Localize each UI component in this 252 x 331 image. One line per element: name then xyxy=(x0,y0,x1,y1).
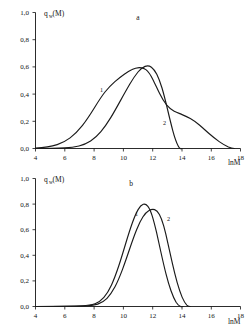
curve-a-1 xyxy=(36,68,235,149)
x-tick-label-b-1: 6 xyxy=(63,312,67,320)
y-tick-label-b-5: 1,0 xyxy=(20,175,29,183)
curve-b-1 xyxy=(36,204,184,306)
y-axis-title-a: q w (M) xyxy=(44,9,65,19)
x-axis-title-b: lnM xyxy=(228,317,241,326)
curve-label-a-2: 2 xyxy=(163,119,166,126)
x-tick-label-b-4: 12 xyxy=(149,312,157,320)
y-tick-label-a-4: 0,8 xyxy=(20,36,29,44)
x-tick-label-a-6: 16 xyxy=(208,154,216,162)
x-tick-label-b-2: 8 xyxy=(92,312,96,320)
x-tick-label-a-5: 14 xyxy=(179,154,187,162)
x-tick-label-a-2: 8 xyxy=(92,154,96,162)
curve-a-2 xyxy=(36,66,182,149)
x-tick-label-b-3: 10 xyxy=(120,312,128,320)
y-axis-title-b-main: q xyxy=(44,175,48,184)
y-axis-title-b: q w (M) xyxy=(44,175,65,185)
x-tick-label-b-5: 14 xyxy=(179,312,187,320)
curve-label-b-2: 2 xyxy=(167,215,170,222)
y-tick-label-b-1: 0,2 xyxy=(20,277,29,285)
plot-b-svg: 0,0 0,2 0,4 0,6 0,8 1,0 4 6 8 10 12 14 1… xyxy=(0,166,252,331)
curve-b-2 xyxy=(36,209,191,306)
y-axis-title-a-main: q xyxy=(44,9,48,18)
y-axis-title-b-tail: (M) xyxy=(53,175,65,184)
y-tick-label-a-2: 0,4 xyxy=(20,91,29,99)
figure-container: 0,0 0,2 0,4 0,6 0,8 1,0 4 6 8 10 12 14 1… xyxy=(0,0,252,331)
x-tick-label-a-3: 10 xyxy=(120,154,128,162)
curve-label-a-1: 1 xyxy=(100,86,103,93)
plot-a-svg: 0,0 0,2 0,4 0,6 0,8 1,0 4 6 8 10 12 14 1… xyxy=(0,0,252,165)
x-ticks-b xyxy=(36,307,241,310)
y-tick-label-b-2: 0,4 xyxy=(20,252,29,260)
x-tick-label-a-0: 4 xyxy=(34,154,38,162)
x-tick-label-b-0: 4 xyxy=(34,312,38,320)
chart-panel-a: 0,0 0,2 0,4 0,6 0,8 1,0 4 6 8 10 12 14 1… xyxy=(0,0,252,165)
y-axis-title-a-tail: (M) xyxy=(53,9,65,18)
curve-label-b-1: 1 xyxy=(135,210,138,217)
y-tick-label-b-0: 0,0 xyxy=(20,303,29,311)
y-tick-label-a-5: 1,0 xyxy=(20,9,29,17)
y-tick-label-b-4: 0,8 xyxy=(20,201,29,209)
panel-letter-a: a xyxy=(136,13,140,22)
x-tick-label-b-6: 16 xyxy=(208,312,216,320)
x-tick-label-a-1: 6 xyxy=(63,154,67,162)
chart-panel-b: 0,0 0,2 0,4 0,6 0,8 1,0 4 6 8 10 12 14 1… xyxy=(0,166,252,331)
y-tick-label-a-3: 0,6 xyxy=(20,63,29,71)
panel-letter-b: b xyxy=(129,179,133,188)
y-tick-label-a-1: 0,2 xyxy=(20,118,29,126)
y-tick-label-b-3: 0,6 xyxy=(20,226,29,234)
y-tick-label-a-0: 0,0 xyxy=(20,145,29,153)
x-tick-label-a-4: 12 xyxy=(149,154,157,162)
x-axis-title-a: lnM xyxy=(228,158,241,165)
